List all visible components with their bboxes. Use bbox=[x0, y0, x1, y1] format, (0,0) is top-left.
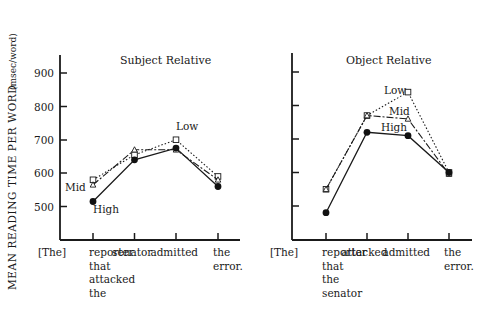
object-relative-chart: Object Relative [The]reporterthatthesena… bbox=[270, 53, 474, 299]
data-point-circle bbox=[131, 156, 138, 163]
series-labels: Mid High Low bbox=[65, 120, 198, 215]
series-low bbox=[323, 89, 452, 192]
subject-relative-chart: Subject Relative 900 800 700 600 500 [Th… bbox=[34, 54, 243, 299]
chart-canvas: MEAN READING TIME PER WORD (msec/word) S… bbox=[0, 0, 488, 312]
x-tick-label: senator bbox=[112, 246, 153, 258]
series-label-mid: Mid bbox=[65, 181, 86, 193]
x-tick-label: senator bbox=[322, 287, 363, 299]
y-tick-label: 600 bbox=[34, 167, 54, 179]
series-labels: Low Mid High bbox=[381, 84, 410, 133]
x-tick-label: error. bbox=[444, 260, 474, 272]
x-tick-label: admitted bbox=[382, 246, 430, 258]
x-tick-label-lead: [The] bbox=[38, 246, 66, 258]
chart-title: Subject Relative bbox=[120, 54, 211, 67]
data-point-circle bbox=[405, 132, 412, 139]
series-low bbox=[90, 137, 221, 183]
x-tick-label: attacked bbox=[89, 273, 135, 285]
x-ticks bbox=[326, 233, 449, 240]
y-axis-unit: (msec/word) bbox=[8, 33, 18, 90]
y-tick-label: 900 bbox=[34, 67, 54, 79]
x-tick-label: that bbox=[322, 260, 344, 272]
x-tick-label: that bbox=[89, 260, 111, 272]
x-tick-label: admitted bbox=[150, 246, 198, 258]
x-tick-label: the bbox=[213, 246, 230, 258]
data-point-circle bbox=[446, 169, 453, 176]
y-ticks bbox=[292, 72, 299, 206]
x-tick-label: attacked bbox=[341, 246, 387, 258]
series-mid bbox=[90, 147, 221, 187]
chart-title: Object Relative bbox=[346, 54, 432, 67]
series-lines bbox=[323, 89, 453, 216]
series-line bbox=[93, 148, 218, 201]
x-tick-label: the bbox=[322, 273, 339, 285]
y-axis-title: MEAN READING TIME PER WORD (msec/word) bbox=[6, 33, 18, 290]
series-line bbox=[93, 140, 218, 180]
series-label-low: Low bbox=[384, 84, 406, 96]
series-high bbox=[323, 129, 453, 216]
series-line bbox=[326, 92, 449, 189]
y-tick-label: 800 bbox=[34, 101, 54, 113]
series-lines bbox=[90, 137, 222, 205]
series-label-high: High bbox=[93, 203, 119, 215]
data-point-circle bbox=[364, 129, 371, 136]
x-tick-labels: [The]reporterthatattackedthesenatoradmit… bbox=[38, 246, 243, 299]
x-tick-label: error. bbox=[213, 260, 243, 272]
x-tick-label-lead: [The] bbox=[270, 246, 298, 258]
series-label-low: Low bbox=[176, 120, 198, 132]
series-label-high: High bbox=[381, 121, 407, 133]
x-tick-label: the bbox=[444, 246, 461, 258]
data-point-circle bbox=[215, 183, 222, 190]
y-axis-label: MEAN READING TIME PER WORD bbox=[6, 85, 18, 290]
x-tick-labels: [The]reporterthatthesenatorattackedadmit… bbox=[270, 246, 474, 299]
series-high bbox=[90, 145, 222, 205]
y-ticks: 900 800 700 600 500 bbox=[34, 67, 67, 213]
series-label-mid: Mid bbox=[389, 105, 410, 117]
series-line bbox=[326, 132, 449, 212]
reading-time-figure: MEAN READING TIME PER WORD (msec/word) S… bbox=[0, 0, 488, 312]
y-tick-label: 700 bbox=[34, 134, 54, 146]
data-point-circle bbox=[323, 209, 330, 216]
data-point-circle bbox=[173, 145, 180, 152]
x-tick-label: the bbox=[89, 287, 106, 299]
x-ticks bbox=[93, 233, 218, 240]
data-point-square bbox=[173, 137, 179, 143]
y-tick-label: 500 bbox=[34, 201, 54, 213]
series-line bbox=[93, 150, 218, 185]
